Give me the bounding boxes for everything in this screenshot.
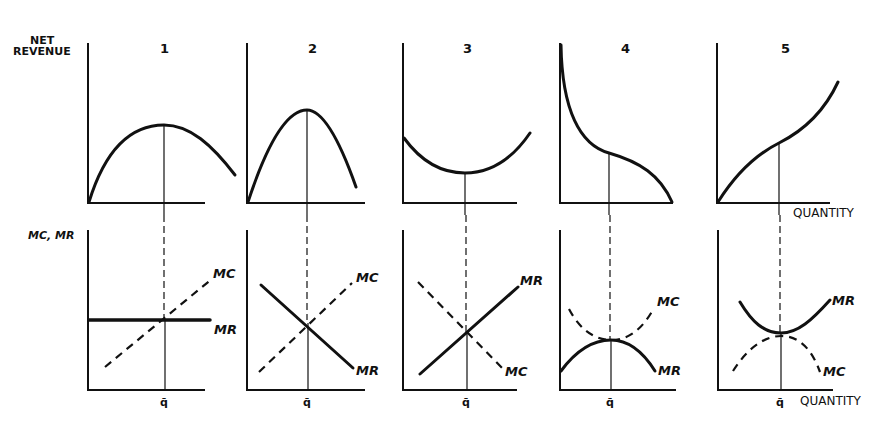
top-xlabel: QUANTITY [793, 206, 855, 220]
top-axes [247, 43, 365, 203]
net-revenue-curve [404, 133, 530, 173]
qbar-label: q̄ [606, 396, 614, 409]
qbar-label: q̄ [303, 396, 311, 409]
panel-1: 1 MC MR q̄ [88, 41, 237, 409]
panel-4: 4 MC MR q̄ [560, 41, 681, 409]
mr-label: MR [520, 273, 543, 288]
bottom-axes [247, 230, 365, 390]
panel-number: 5 [781, 41, 790, 56]
bottom-ylabel: MC, MR [28, 229, 74, 242]
mc-curve [105, 278, 213, 367]
mr-curve [561, 340, 655, 371]
mc-curve [418, 282, 504, 370]
mr-label: MR [658, 363, 681, 378]
mc-label: MC [823, 364, 846, 379]
net-revenue-marginal-diagram: NET REVENUE MC, MR 1 MC MR q̄ 2 MC MR q̄… [0, 0, 896, 431]
mr-label: MR [356, 363, 379, 378]
mr-label: MR [832, 293, 855, 308]
qbar-label: q̄ [776, 396, 784, 409]
top-axes [88, 43, 205, 203]
mr-label: MR [214, 322, 237, 337]
qbar-label: q̄ [160, 396, 168, 409]
panel-5: 5 QUANTITY MR MC q̄ QUANTITY [717, 41, 862, 409]
panel-3: 3 MR MC q̄ [403, 41, 543, 409]
net-revenue-curve [248, 110, 356, 202]
mc-curve [569, 308, 654, 340]
panel-number: 1 [160, 41, 169, 56]
mc-label: MC [356, 270, 379, 285]
panel-2: 2 MC MR q̄ [247, 41, 379, 409]
bottom-xlabel: QUANTITY [800, 394, 862, 408]
mc-curve [733, 336, 820, 372]
net-revenue-curve [561, 45, 672, 202]
qbar-label: q̄ [462, 396, 470, 409]
top-axes [403, 43, 517, 203]
mc-label: MC [213, 266, 236, 281]
net-revenue-curve [718, 82, 838, 202]
mc-label: MC [657, 294, 680, 309]
mr-curve [740, 300, 830, 333]
panel-number: 3 [463, 41, 472, 56]
panel-number: 2 [308, 41, 317, 56]
net-revenue-curve [89, 125, 235, 202]
mr-curve [420, 287, 518, 374]
top-ylabel-line2: REVENUE [13, 45, 71, 58]
panel-number: 4 [621, 41, 630, 56]
mc-label: MC [505, 364, 528, 379]
